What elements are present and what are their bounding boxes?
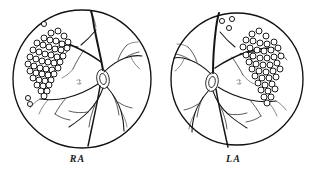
laser-scar [274,60,280,66]
macula-stroke-0 [77,80,81,81]
laser-scar [275,45,281,51]
vessel-branch-9 [127,42,138,45]
laser-scar [240,44,246,50]
laser-scar-cluster-left-eye [240,28,284,106]
fundus-drawing-right-eye [0,0,155,152]
laser-scar [246,59,252,65]
laser-scar [261,94,267,100]
laser-scar-outlier [229,16,234,21]
laser-scar [258,87,264,93]
laser-scar [39,58,45,64]
limbus-group-left [171,13,303,145]
laser-scar [58,47,64,53]
vessel-branch-6 [174,58,211,74]
laser-scar [277,66,283,72]
laser-scar [263,33,269,39]
vessel-branch-11 [69,88,103,127]
laser-scar [267,62,273,68]
laser-scar-outliers-left-eye [219,16,234,30]
vessel-branch-4 [73,50,84,69]
laser-scar-cluster-right-eye [25,28,71,99]
optic-cup-outline [99,73,107,85]
macula-stroke-0 [237,80,241,81]
laser-scar [61,33,67,39]
laser-scar [64,45,70,51]
vessel-branch-14 [216,89,228,147]
laser-scar [30,47,36,53]
laser-scar [265,88,271,94]
laser-scar [243,52,249,58]
laser-scar [42,51,48,57]
vessel-branch-22 [39,100,48,114]
vessel-branch-17 [184,104,198,110]
laser-scar [260,62,266,68]
laser-scar [25,61,31,67]
limbus-circle-left-eye [171,13,303,145]
laser-scar [252,73,258,79]
laser-scar [30,75,36,81]
vessel-branch-20 [250,100,261,116]
laser-scar [264,41,270,47]
fundus-panel-left-eye: LA [156,0,311,182]
laser-scar [51,71,57,77]
vessel-branch-26 [81,30,96,45]
vessel-branch-11 [213,91,247,128]
laser-scar [46,82,52,88]
laser-scar [268,47,274,53]
laser-scar [270,68,276,74]
laser-scar [48,30,54,36]
laser-scar [60,53,66,59]
laser-scar-outlier [25,95,30,100]
laser-scar-outlier [219,18,224,23]
macula-mark-right-eye [77,79,82,84]
laser-scar [257,55,263,61]
vessel-branch-21 [55,114,70,120]
laser-scar [53,38,59,44]
vessel-branch-13 [69,111,88,113]
vessel-branch-15 [192,90,209,132]
laser-scar [268,94,274,100]
laser-scar [249,66,255,72]
laser-scar [27,54,33,60]
laser-scar [250,38,256,44]
vessel-branch-14 [88,86,100,146]
optic-disc-outline [95,68,111,89]
vessel-branch-23 [276,101,286,110]
laser-scar [36,49,42,55]
vessel-branch-4 [232,57,243,75]
laser-scar [34,82,40,88]
vessel-branch-0 [91,11,103,70]
laser-scar [33,56,39,62]
laser-scar [39,71,45,77]
laser-scar [27,68,33,74]
laser-scar [65,39,71,45]
eye-label-left: LA [156,153,311,165]
laser-scar [271,54,277,60]
optic-disc-outline [204,71,220,92]
laser-scar [250,53,256,59]
fundus-panel-right-eye: RA [0,0,155,182]
laser-scar [249,31,255,37]
laser-scar [41,93,47,99]
vessel-branch-6 [104,56,142,72]
laser-scar [55,65,61,71]
vessel-branch-13 [228,113,247,115]
laser-scar-outlier [41,21,46,26]
vessel-branch-21 [246,116,261,122]
laser-scar [40,42,46,48]
vessel-branch-0 [213,13,219,73]
laser-scar [272,86,278,92]
laser-scar [46,44,52,50]
laser-scar [57,59,63,65]
laser-scar [264,100,270,106]
laser-scar [257,40,263,46]
optic-disc-right-eye [95,68,111,89]
vessel-branch-26 [220,32,235,47]
laser-scar [271,39,277,45]
laser-scar [263,69,269,75]
fundus-drawing-left-eye [156,0,311,152]
laser-scar [243,37,249,43]
laser-scar [34,40,40,46]
macula-stroke-1 [237,83,241,84]
laser-scar [254,47,260,53]
